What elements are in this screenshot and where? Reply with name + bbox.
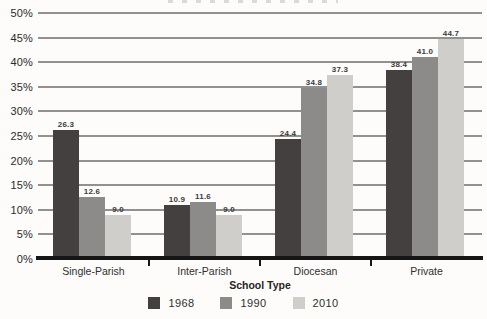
legend-swatch-1990	[220, 297, 232, 309]
gridline	[38, 12, 482, 14]
legend-item-1990: 1990	[220, 297, 266, 309]
legend-label: 1990	[240, 297, 266, 309]
bar-value-label: 12.6	[72, 187, 112, 196]
bar-1968-private	[386, 70, 412, 259]
y-tick-label: 20%	[0, 155, 33, 167]
bar-value-label: 26.3	[46, 120, 86, 129]
bar-2010-private	[438, 39, 464, 259]
y-tick-label: 45%	[0, 32, 33, 44]
y-tick-label: 0%	[0, 253, 33, 265]
category-tick	[370, 260, 372, 266]
bar-1990-diocesan	[301, 88, 327, 259]
legend-label: 1968	[168, 297, 194, 309]
y-tick-label: 40%	[0, 56, 33, 68]
category-label-single-parish: Single-Parish	[38, 265, 149, 277]
bar-value-label: 9.0	[209, 205, 249, 214]
bar-1968-diocesan	[275, 139, 301, 259]
legend-item-2010: 2010	[293, 297, 339, 309]
plot-area: 26.312.69.010.911.69.024.434.837.338.441…	[38, 13, 482, 259]
bar-value-label: 9.0	[98, 205, 138, 214]
bar-2010-inter-parish	[216, 215, 242, 259]
category-tick	[259, 260, 261, 266]
bar-1990-private	[412, 57, 438, 259]
bar-1968-inter-parish	[164, 205, 190, 259]
clipped-title-remnant	[168, 0, 338, 3]
legend-swatch-2010	[293, 297, 305, 309]
legend: 196819902010	[0, 297, 487, 309]
legend-label: 2010	[313, 297, 339, 309]
gridline	[38, 37, 482, 39]
bar-value-label: 37.3	[320, 65, 360, 74]
x-axis-title: School Type	[38, 279, 482, 291]
y-tick-label: 10%	[0, 204, 33, 216]
y-tick-label: 15%	[0, 179, 33, 191]
legend-item-1968: 1968	[148, 297, 194, 309]
bar-2010-diocesan	[327, 75, 353, 259]
category-label-inter-parish: Inter-Parish	[149, 265, 260, 277]
bar-value-label: 44.7	[431, 29, 471, 38]
category-label-diocesan: Diocesan	[260, 265, 371, 277]
y-tick-label: 30%	[0, 105, 33, 117]
legend-swatch-1968	[148, 297, 160, 309]
y-tick-label: 5%	[0, 228, 33, 240]
y-tick-label: 35%	[0, 81, 33, 93]
bar-value-label: 11.6	[183, 192, 223, 201]
y-tick-label: 25%	[0, 130, 33, 142]
bar-chart: 26.312.69.010.911.69.024.434.837.338.441…	[0, 0, 487, 319]
y-tick-label: 50%	[0, 7, 33, 19]
category-tick	[148, 260, 150, 266]
category-label-private: Private	[371, 265, 482, 277]
bar-2010-single-parish	[105, 215, 131, 259]
